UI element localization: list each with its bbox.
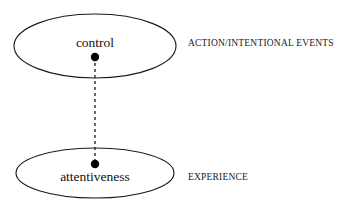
node-dot-attentiveness[interactable] [91, 160, 99, 168]
side-label-experience: EXPERIENCE [188, 173, 248, 183]
diagram-canvas: control attentiveness ACTION/INTENTIONAL… [0, 0, 346, 214]
side-label-action-intentional-events: ACTION/INTENTIONAL EVENTS [188, 39, 334, 49]
node-label-control: control [0, 36, 190, 50]
node-label-attentiveness: attentiveness [0, 170, 190, 184]
node-dot-control[interactable] [91, 53, 99, 61]
